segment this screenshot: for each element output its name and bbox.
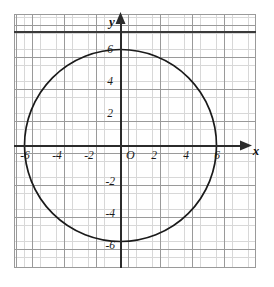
y-axis-label: y [107, 14, 115, 29]
x-tick-label: 2 [151, 149, 157, 161]
y-tick-label: -6 [105, 239, 115, 251]
x-tick-label: 4 [183, 149, 189, 161]
x-tick-label: -6 [20, 149, 30, 161]
x-tick-label: 6 [214, 149, 220, 161]
coordinate-plane-svg: x y O -6 -4 -2 2 4 6 6 4 2 -2 -4 -6 [0, 0, 274, 287]
y-tick-label: -4 [105, 207, 115, 219]
x-tick-label: -2 [84, 149, 94, 161]
graph-figure: x y O -6 -4 -2 2 4 6 6 4 2 -2 -4 -6 [0, 0, 274, 287]
y-tick-label: 4 [107, 75, 113, 87]
x-axis-label: x [252, 143, 260, 158]
y-tick-label: -2 [105, 175, 115, 187]
y-tick-label: 6 [107, 43, 113, 55]
origin-label: O [126, 148, 135, 162]
y-tick-label: 2 [107, 107, 113, 119]
x-tick-label: -4 [52, 149, 62, 161]
